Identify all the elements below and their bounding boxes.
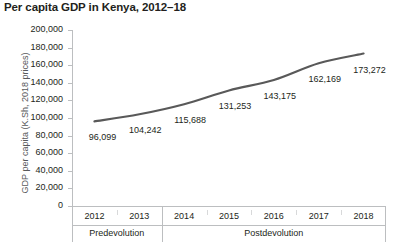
data-point-label: 143,175 (264, 91, 297, 101)
x-axis-year-divider (341, 210, 342, 215)
x-axis-year-label: 2017 (296, 207, 341, 225)
x-axis-group-divider (162, 225, 163, 242)
x-axis-group-edge-divider (385, 225, 386, 242)
data-point-label: 115,688 (174, 115, 206, 125)
y-axis-tick-label: 20,000 (35, 182, 63, 192)
x-axis-edge-divider (72, 207, 73, 225)
y-axis-tick-label: 60,000 (35, 147, 63, 157)
x-axis-group-label: Predevolution (72, 225, 162, 242)
data-point-label: 162,169 (308, 74, 341, 84)
chart-title: Per capita GDP in Kenya, 2012–18 (4, 1, 186, 13)
y-axis-tick-label: 180,000 (30, 42, 63, 52)
x-axis-year-label: 2012 (72, 207, 117, 225)
y-axis-tick-label: 100,000 (30, 112, 63, 122)
y-axis-tick-label: 0 (58, 200, 63, 210)
x-axis-year-label: 2018 (341, 207, 386, 225)
data-point-label: 173,272 (353, 65, 386, 75)
x-axis-year-divider (251, 210, 252, 215)
series-line-chart (72, 30, 386, 207)
x-axis-year-label: 2015 (207, 207, 252, 225)
x-axis-year-label: 2016 (251, 207, 296, 225)
y-axis-tick-label: 120,000 (30, 94, 63, 104)
x-axis-group-label: Postdevolution (162, 225, 386, 242)
y-axis-tick-label: 160,000 (30, 59, 63, 69)
chart-figure: Per capita GDP in Kenya, 2012–18 GDP per… (0, 0, 406, 242)
x-axis-year-divider (296, 210, 297, 215)
x-axis-edge-divider (385, 207, 386, 225)
data-point-label: 96,099 (89, 132, 117, 142)
data-point-label: 131,253 (219, 101, 252, 111)
x-axis-year-label: 2013 (117, 207, 162, 225)
x-axis-year-divider (207, 210, 208, 215)
x-axis-year-label: 2014 (162, 207, 207, 225)
y-axis-title: GDP per capita (K.Sh, 2018 prices) (20, 35, 30, 211)
x-axis-group-edge-divider (72, 225, 73, 242)
x-axis-group-divider-upper (162, 207, 163, 225)
y-axis-tick-label: 40,000 (35, 165, 63, 175)
y-axis-tick-label: 140,000 (30, 77, 63, 87)
y-axis-tick-label: 80,000 (35, 130, 63, 140)
x-axis-group-row: PredevolutionPostdevolution (72, 225, 386, 242)
y-axis-tick-label: 200,000 (30, 24, 63, 34)
x-axis-year-row: 2012201320142015201620172018 (72, 207, 386, 225)
x-axis-year-divider (117, 210, 118, 215)
data-point-label: 104,242 (129, 125, 162, 135)
